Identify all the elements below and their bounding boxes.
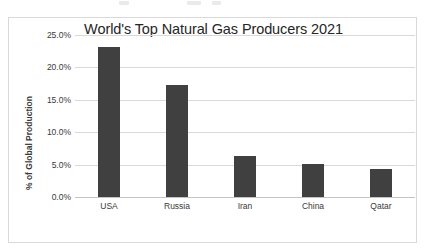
x-axis-tick-label: Qatar <box>347 201 415 211</box>
y-axis-tick-label: 20.0% <box>11 62 71 72</box>
y-axis-tick-label: 15.0% <box>11 95 71 105</box>
plot-area: 25.0%20.0%15.0%10.0%5.0%0.0% USARussiaIr… <box>75 35 415 197</box>
y-axis-tick-label: 10.0% <box>11 127 71 137</box>
y-axis-tick-label: 0.0% <box>11 192 71 202</box>
bar[interactable] <box>370 169 392 197</box>
x-axis-tick-label: Iran <box>211 201 279 211</box>
x-axis-tick-label: Russia <box>143 201 211 211</box>
y-axis-tick-label: 5.0% <box>11 160 71 170</box>
bar[interactable] <box>166 85 188 197</box>
bar[interactable] <box>302 164 324 197</box>
y-axis-tick-label: 25.0% <box>11 30 71 40</box>
scan-artifact-strip <box>0 0 427 11</box>
chart-container: World's Top Natural Gas Producers 2021 %… <box>8 17 417 243</box>
bar-slot <box>211 35 279 197</box>
bar-slot <box>279 35 347 197</box>
bar[interactable] <box>234 156 256 197</box>
x-axis-tick-label: China <box>279 201 347 211</box>
gridline <box>75 197 415 198</box>
bar-series <box>75 35 415 197</box>
x-axis-tick-label: USA <box>75 201 143 211</box>
bar-slot <box>143 35 211 197</box>
bar-slot <box>347 35 415 197</box>
bar-slot <box>75 35 143 197</box>
bar[interactable] <box>98 47 120 197</box>
